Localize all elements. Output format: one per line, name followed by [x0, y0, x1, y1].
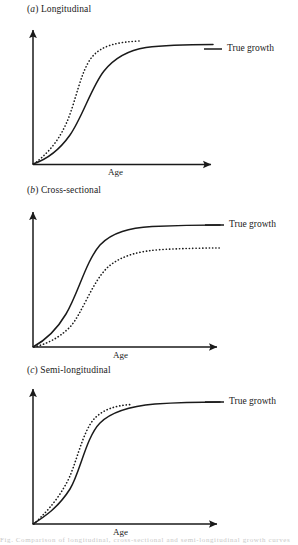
panel-b-legend-label: True growth	[229, 219, 276, 230]
figure-caption-fragment: Fig. Comparison of longitudinal, cross-s…	[0, 536, 298, 545]
panel-a-true-growth-curve	[33, 45, 213, 165]
panel-a-x-axis-label: Age	[108, 167, 123, 178]
panel-c-plot	[0, 361, 298, 541]
panel-b-y-axis-label: Height	[0, 269, 17, 294]
panel-c-observed-curve	[34, 405, 131, 525]
panel-longitudinal: (a) Longitudinal Height Age	[0, 0, 298, 180]
panel-c-legend-label: True growth	[229, 396, 276, 407]
panel-a-plot	[0, 0, 298, 180]
growth-curves-figure: (a) Longitudinal Height Age	[0, 0, 298, 545]
panel-b-observed-curve	[34, 248, 220, 347]
panel-semi-longitudinal: (c) Semi-longitudinal Height Age True gr…	[0, 361, 298, 541]
panel-c-true-growth-curve	[33, 402, 220, 524]
panel-b-plot	[0, 181, 298, 361]
panel-a-legend-label: True growth	[227, 43, 274, 54]
panel-a-y-axis-label: Height	[0, 86, 17, 111]
panel-cross-sectional: (b) Cross-sectional Height Age True grow…	[0, 181, 298, 361]
panel-b-x-axis-label: Age	[113, 350, 128, 361]
panel-b-true-growth-curve	[33, 225, 220, 347]
panel-c-y-axis-label: Height	[0, 447, 17, 472]
